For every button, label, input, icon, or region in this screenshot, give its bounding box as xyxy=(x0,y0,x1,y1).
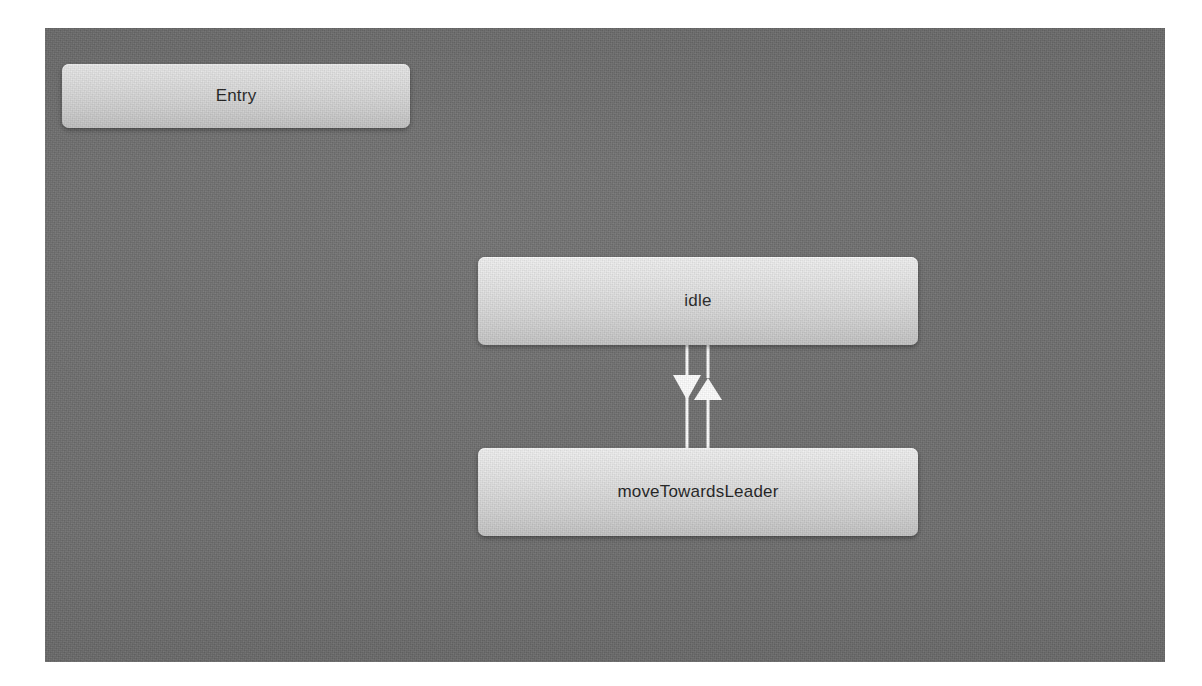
state-node-movetowardsleader[interactable]: moveTowardsLeader xyxy=(478,448,918,536)
state-machine-canvas[interactable]: Entry idle moveTowardsLeader xyxy=(45,28,1165,662)
state-node-label: Entry xyxy=(216,86,257,106)
transition-movetowardsleader-to-idle[interactable] xyxy=(694,345,722,448)
state-node-entry[interactable]: Entry xyxy=(62,64,410,128)
transition-arrowhead-up xyxy=(694,378,722,400)
state-node-label: idle xyxy=(684,291,711,311)
state-node-label: moveTowardsLeader xyxy=(617,482,778,502)
state-node-idle[interactable]: idle xyxy=(478,257,918,345)
